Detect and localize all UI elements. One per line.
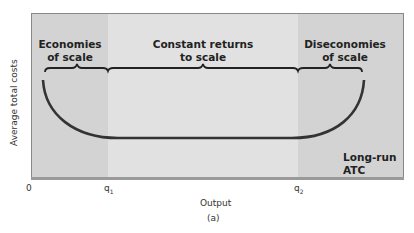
label-economies: Economies of scale (30, 38, 110, 64)
label-constant: Constant returns to scale (143, 38, 263, 64)
x-axis-label: Output (200, 198, 231, 208)
panel-label: (a) (207, 213, 220, 223)
label-economies-line1: Economies (30, 38, 110, 51)
x-tick-zero: 0 (26, 183, 32, 193)
x-tick-q1-sub: 1 (110, 188, 114, 195)
atc-curve (43, 80, 364, 138)
label-diseconomies: Diseconomies of scale (290, 38, 400, 64)
label-constant-line2: to scale (143, 51, 263, 64)
x-tick-q2-sub: 2 (300, 188, 304, 195)
brace (45, 64, 362, 72)
label-constant-line1: Constant returns (143, 38, 263, 51)
label-diseconomies-line1: Diseconomies (290, 38, 400, 51)
label-curve: Long-run ATC (343, 151, 396, 177)
x-tick-q2: q2 (294, 183, 304, 195)
label-curve-line2: ATC (343, 164, 396, 177)
label-economies-line2: of scale (30, 51, 110, 64)
label-curve-line1: Long-run (343, 151, 396, 164)
y-axis-label: Average total costs (9, 59, 19, 146)
x-tick-q1: q1 (104, 183, 114, 195)
label-diseconomies-line2: of scale (290, 51, 400, 64)
